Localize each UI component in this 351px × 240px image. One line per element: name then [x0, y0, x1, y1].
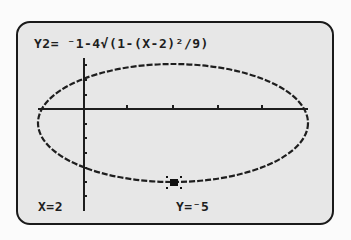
cursor-x-readout: X=2 — [38, 200, 63, 214]
cursor-y-readout: Y=⁻5 — [176, 200, 209, 214]
ellipse-curve — [38, 64, 308, 182]
equation-label: Y2= ⁻1-4√(1-(X-2)²/9) — [34, 37, 209, 51]
